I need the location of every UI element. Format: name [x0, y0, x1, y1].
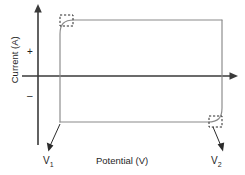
v1-leader-arrow	[47, 124, 60, 152]
x-axis-arrowhead	[230, 72, 239, 80]
v1-annotation-text: V	[43, 155, 50, 166]
x-axis	[22, 72, 238, 80]
v2-annotation-subscript: 2	[218, 161, 222, 168]
cathodic-sweep-path	[60, 20, 222, 122]
v1-leader-arrowhead	[47, 143, 54, 152]
v2-leader-line	[213, 127, 221, 146]
y-axis-arrowhead	[34, 4, 42, 13]
v2-leader-arrowhead	[218, 142, 225, 151]
v1-annotation-subscript: 1	[50, 161, 54, 168]
v2-annotation: V2	[211, 156, 222, 168]
y-axis-label: Current (A)	[10, 24, 20, 96]
cv-loop-trace	[60, 20, 222, 122]
v1-annotation: V1	[43, 156, 54, 168]
negative-current-sign: –	[27, 91, 33, 101]
anodic-sweep-path	[60, 20, 222, 122]
v1-leader-line	[50, 124, 60, 146]
cv-plot-canvas	[0, 0, 245, 175]
cv-figure: Current (A) Potential (V) + – V1 V2	[0, 0, 245, 175]
y-axis	[34, 4, 42, 145]
v2-annotation-text: V	[211, 155, 218, 166]
positive-current-sign: +	[27, 47, 33, 57]
x-axis-label: Potential (V)	[96, 156, 148, 166]
v2-leader-arrow	[213, 127, 224, 152]
